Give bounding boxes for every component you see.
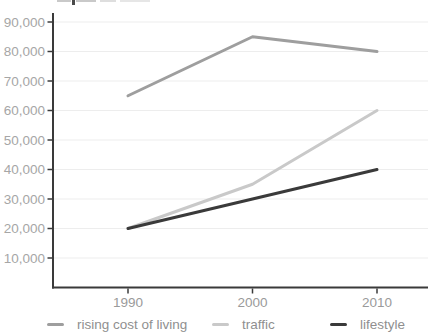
x-tick-label: 2010 — [362, 295, 392, 310]
legend-item-traffic: traffic — [212, 314, 275, 334]
legend-swatch-rising-cost-of-living — [47, 323, 64, 326]
legend-label: lifestyle — [360, 317, 405, 332]
line-chart: 10,00020,00030,00040,00050,00060,00070,0… — [0, 0, 428, 336]
y-tick-label: 40,000 — [4, 162, 45, 177]
legend-label: traffic — [242, 317, 275, 332]
y-tick-label: 70,000 — [4, 74, 45, 89]
legend-swatch-lifestyle — [330, 323, 347, 326]
legend-label: rising cost of living — [77, 317, 187, 332]
y-tick-label: 20,000 — [4, 221, 45, 236]
x-tick-label: 2000 — [237, 295, 267, 310]
y-tick-label: 50,000 — [4, 133, 45, 148]
legend-item-rising-cost-of-living: rising cost of living — [47, 314, 187, 334]
y-tick-label: 60,000 — [4, 103, 45, 118]
chart-legend: rising cost of living traffic lifestyle — [0, 314, 428, 336]
legend-swatch-traffic — [212, 323, 229, 326]
legend-item-lifestyle: lifestyle — [330, 314, 405, 334]
chart-plot-area: 10,00020,00030,00040,00050,00060,00070,0… — [0, 0, 428, 336]
y-tick-label: 80,000 — [4, 44, 45, 59]
y-tick-label: 10,000 — [4, 251, 45, 266]
y-tick-label: 90,000 — [4, 15, 45, 30]
series-line-rising-cost-of-living — [128, 37, 377, 96]
x-tick-label: 1990 — [113, 295, 143, 310]
y-tick-label: 30,000 — [4, 192, 45, 207]
